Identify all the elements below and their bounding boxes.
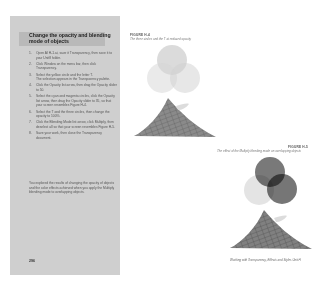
step-item: 5.Select the cyan and magenta circles, c… xyxy=(29,94,117,108)
step-item: 8.Save your work, then close the Transpa… xyxy=(29,131,117,140)
section-heading: Change the opacity and blending mode of … xyxy=(29,32,117,44)
step-item: 3.Select the yellow circle and the lette… xyxy=(29,73,117,82)
step-item: 2.Click Window on the menu bar, then cli… xyxy=(29,62,117,71)
page-footer: Working with Transparency, Effects and S… xyxy=(230,258,301,262)
figure-h4-circles xyxy=(145,44,210,96)
figure-h4-mountain xyxy=(132,96,222,140)
step-item: 6.Select the T and the three circles, th… xyxy=(29,110,117,119)
figure-h5-mountain xyxy=(228,208,318,252)
figure-h5-circles xyxy=(242,156,307,208)
step-item: 4.Click the Opacity list arrow, then dra… xyxy=(29,83,117,92)
steps-list: 1.Open AI H-1.ai, save it Transparency, … xyxy=(29,51,117,142)
page-number: 296 xyxy=(29,259,35,263)
step-item: 7.Click the Blending Mode list arrow, cl… xyxy=(29,120,117,129)
figure-caption: The effect of the Multiply blending mode… xyxy=(217,149,301,153)
figure-caption: The three circles and the T at reduced o… xyxy=(130,37,191,41)
summary-paragraph: You explored the results of changing the… xyxy=(29,181,117,195)
step-item: 1.Open AI H-1.ai, save it Transparency, … xyxy=(29,51,117,60)
